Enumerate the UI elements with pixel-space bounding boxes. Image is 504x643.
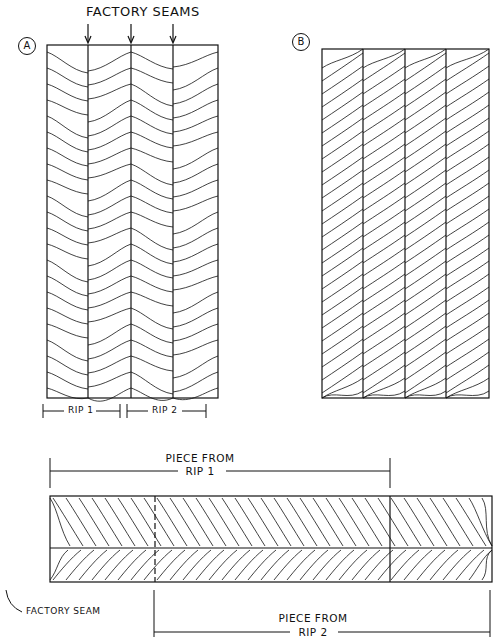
- seam-arrows: [85, 24, 176, 43]
- panel-a-grain: [47, 52, 218, 401]
- factory-seam-label: FACTORY SEAM: [26, 606, 101, 616]
- factory-seam-leader: [6, 590, 22, 612]
- factory-seams-title: FACTORY SEAMS: [86, 4, 200, 19]
- diagram-drawing: [0, 0, 504, 643]
- piece-rip2-line1: PIECE FROM: [273, 612, 353, 624]
- bottom-plank-grain: [50, 498, 492, 580]
- rip1-label: RIP 1: [68, 405, 93, 415]
- piece-rip1-line1: PIECE FROM: [160, 452, 240, 464]
- panel-a-label: A: [18, 37, 36, 55]
- panel-a-board: [47, 45, 218, 398]
- piece-rip1-line2: RIP 1: [160, 465, 240, 477]
- rip2-label: RIP 2: [152, 405, 177, 415]
- diagram-canvas: FACTORY SEAMS A B RIP 1 RIP 2 PIECE FROM…: [0, 0, 504, 643]
- piece-rip2-line2: RIP 2: [273, 626, 353, 638]
- panel-b-label: B: [292, 33, 310, 51]
